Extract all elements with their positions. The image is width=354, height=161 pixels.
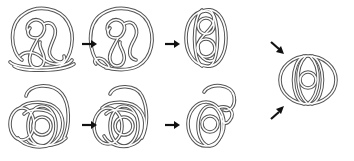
knot-2b bbox=[94, 87, 147, 147]
knot-2a bbox=[10, 86, 68, 147]
arrow-right-icon bbox=[165, 121, 180, 129]
knot-1b bbox=[91, 8, 153, 69]
knot-1a bbox=[10, 8, 74, 70]
arrow-up-right-icon bbox=[271, 106, 284, 119]
arrow-right-icon bbox=[165, 40, 180, 48]
arrow-down-right-icon bbox=[271, 42, 284, 54]
knot-2c bbox=[188, 86, 234, 146]
diagram-canvas bbox=[0, 0, 354, 161]
knot-1c bbox=[186, 10, 226, 66]
knot-simplification-diagram bbox=[0, 0, 354, 161]
knot-final bbox=[280, 56, 336, 104]
